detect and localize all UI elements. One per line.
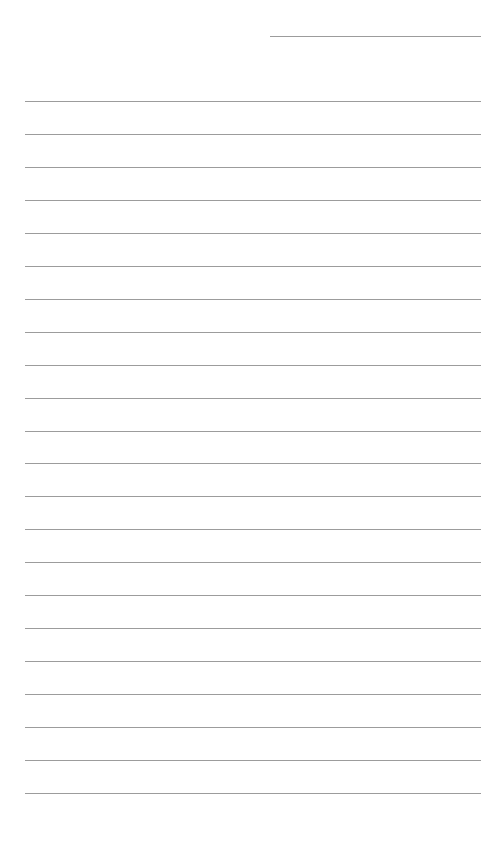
ruled-line (25, 431, 481, 432)
ruled-line (25, 793, 481, 794)
ruled-line (25, 200, 481, 201)
ruled-line (25, 529, 481, 530)
ruled-line (25, 365, 481, 366)
ruled-line (25, 299, 481, 300)
ruled-line (25, 727, 481, 728)
ruled-line (25, 496, 481, 497)
ruled-line (25, 463, 481, 464)
ruled-line (25, 101, 481, 102)
date-line (270, 36, 481, 37)
ruled-line (25, 628, 481, 629)
ruled-line (25, 562, 481, 563)
ruled-line (25, 661, 481, 662)
ruled-line (25, 595, 481, 596)
lined-paper-page (0, 0, 503, 843)
ruled-line (25, 167, 481, 168)
ruled-line (25, 332, 481, 333)
ruled-line (25, 266, 481, 267)
ruled-line (25, 398, 481, 399)
ruled-line (25, 694, 481, 695)
ruled-line (25, 760, 481, 761)
ruled-line (25, 134, 481, 135)
ruled-line (25, 233, 481, 234)
